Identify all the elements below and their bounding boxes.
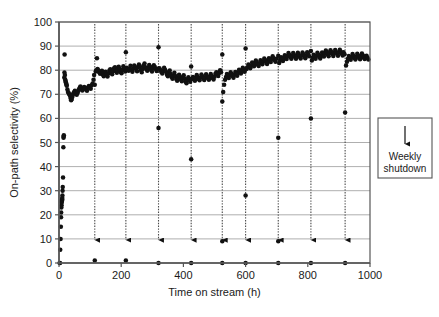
on-path-selectivity-scatter-plot: 010203040506070809010002004006008001000T… xyxy=(0,0,439,317)
y-tick-label-80: 80 xyxy=(40,64,52,76)
data-point xyxy=(142,61,147,65)
data-point xyxy=(189,157,194,162)
data-point xyxy=(62,52,67,57)
x-axis-title: Time on stream (h) xyxy=(168,286,261,298)
x-tick-label-0: 0 xyxy=(56,269,62,281)
x-tick-label-800: 800 xyxy=(299,269,317,281)
data-point xyxy=(222,82,227,87)
legend-label-line2: shutdown xyxy=(384,163,427,174)
data-point xyxy=(309,49,314,54)
data-point xyxy=(60,185,64,190)
data-point xyxy=(220,99,225,104)
data-point xyxy=(189,64,194,69)
y-tick-label-70: 70 xyxy=(40,88,52,100)
y-axis-title: On-path selectivity (%) xyxy=(8,87,20,198)
data-point xyxy=(62,133,67,138)
y-tick-label-0: 0 xyxy=(46,257,52,269)
x-tick-label-600: 600 xyxy=(236,269,254,281)
data-point xyxy=(156,45,161,50)
data-point xyxy=(61,145,66,150)
y-tick-label-40: 40 xyxy=(40,161,52,173)
legend-label-line1: Weekly xyxy=(389,151,422,162)
data-point xyxy=(95,56,100,61)
data-point xyxy=(343,110,348,115)
data-point xyxy=(63,73,68,78)
data-point xyxy=(276,135,281,140)
chart-figure: 010203040506070809010002004006008001000T… xyxy=(0,0,439,317)
data-point xyxy=(220,239,225,244)
data-point xyxy=(91,78,96,83)
data-point xyxy=(219,70,224,75)
data-point xyxy=(342,52,347,57)
data-point xyxy=(124,50,129,55)
x-tick-label-200: 200 xyxy=(112,269,130,281)
y-tick-label-30: 30 xyxy=(40,185,52,197)
data-point xyxy=(276,239,281,244)
y-tick-label-90: 90 xyxy=(40,40,52,52)
y-tick-label-100: 100 xyxy=(34,16,52,28)
data-point xyxy=(243,193,248,198)
y-tick-label-60: 60 xyxy=(40,112,52,124)
data-point xyxy=(156,126,161,131)
y-tick-label-50: 50 xyxy=(40,137,52,149)
data-point xyxy=(93,258,98,263)
data-point xyxy=(243,46,248,51)
x-tick-label-1000: 1000 xyxy=(358,269,382,281)
data-point xyxy=(309,116,314,121)
data-point xyxy=(220,52,225,57)
data-point xyxy=(61,175,66,180)
data-point xyxy=(124,258,129,263)
data-point xyxy=(60,193,65,198)
y-tick-label-10: 10 xyxy=(40,233,52,245)
data-point xyxy=(93,82,98,87)
data-point xyxy=(221,90,226,95)
y-tick-label-20: 20 xyxy=(40,209,52,221)
x-tick-label-400: 400 xyxy=(174,269,192,281)
